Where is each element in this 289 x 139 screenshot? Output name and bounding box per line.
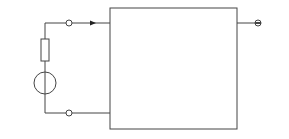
terminal-1 xyxy=(66,20,72,26)
two-port-circuit-diagram xyxy=(0,0,289,139)
terminal-1-prime xyxy=(66,110,72,116)
arrow-i1-icon xyxy=(90,21,96,26)
resistor-5-ohm xyxy=(41,39,49,61)
two-port-network-box xyxy=(110,8,237,129)
